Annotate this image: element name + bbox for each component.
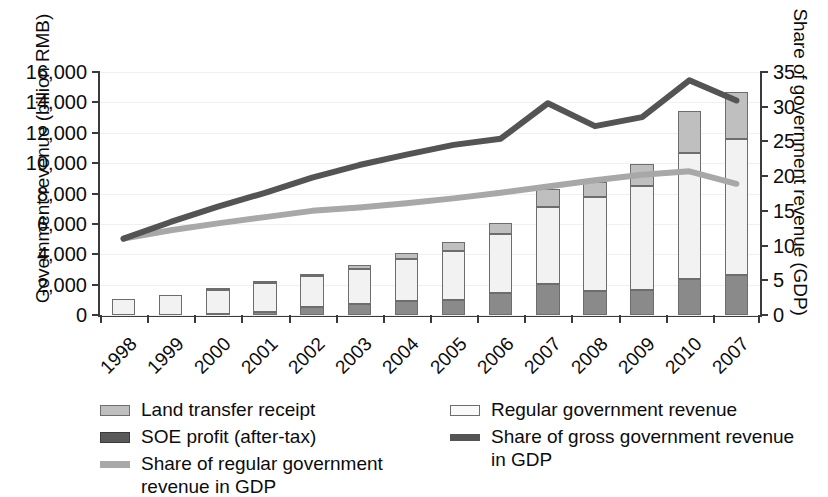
x-tick-mark [524,315,526,323]
bar-segment-soe-profit [630,290,654,315]
y-tick-mark-right [760,140,768,142]
x-tick-mark [666,315,668,323]
y-tick-label-right: 30 [773,95,795,118]
x-tick-label: 1999 [143,333,188,378]
bar-segment-soe-profit [536,284,560,315]
bar-segment-soe-profit [442,300,466,315]
bar-segment-soe-profit [489,293,513,315]
bar-segment-soe-profit [583,291,607,315]
y-tick-mark-right [760,245,768,247]
y-tick-label-left: 12,000 [26,121,87,144]
bar-column [725,92,749,315]
x-tick-label: 2007 [520,333,565,378]
bar-segment-regular-revenue [630,186,654,290]
y-tick-mark-left [92,162,100,164]
regular-share-line-swatch [100,461,130,468]
x-tick-mark [713,315,715,323]
y-tick-label-right: 5 [773,269,784,292]
regular-revenue-swatch [450,405,480,416]
bar-segment-land-transfer [725,92,749,140]
y-tick-mark-left [92,253,100,255]
y-tick-label-right: 35 [773,61,795,84]
y-axis-right-title: Share of government revenue (GDP) [790,9,811,309]
gross-share-line-swatch [450,434,480,441]
bar-column [348,265,372,315]
y-tick-mark-left [92,101,100,103]
bar-segment-land-transfer [253,281,277,283]
y-tick-mark-left [92,223,100,225]
y-tick-mark-right [760,106,768,108]
legend-item-label: SOE profit (after-tax) [141,425,316,448]
y-tick-mark-right [760,71,768,73]
x-tick-label: 2003 [331,333,376,378]
bar-segment-regular-revenue [206,290,230,315]
soe-swatch [100,432,130,443]
legend-item-label: Regular government revenue [491,398,737,421]
y-tick-label-left: 14,000 [26,91,87,114]
y-tick-label-left: 10,000 [26,152,87,175]
bar-segment-land-transfer [300,274,324,276]
bar-column [206,288,230,315]
bar-column [159,295,183,315]
bar-column [489,223,513,315]
bar-column [442,242,466,315]
y-tick-label-left: 4,000 [37,243,87,266]
x-tick-label: 2008 [567,333,612,378]
y-tick-label-left: 6,000 [37,212,87,235]
y-tick-label-right: 25 [773,130,795,153]
y-tick-label-left: 2,000 [37,273,87,296]
x-tick-mark [571,315,573,323]
legend-item-label: Share of regular government revenue in G… [141,452,450,497]
bar-segment-land-transfer [395,253,419,260]
bar-segment-regular-revenue [159,295,183,315]
bar-column [536,189,560,315]
x-tick-label: 2004 [378,333,423,378]
x-tick-label: 2002 [284,333,329,378]
x-tick-label: 2005 [426,333,471,378]
legend-item[interactable]: SOE profit (after-tax) [100,425,450,448]
bar-column [630,164,654,315]
y-tick-mark-right [760,279,768,281]
bar-segment-land-transfer [206,288,230,290]
x-tick-label: 2009 [614,333,659,378]
legend-item[interactable]: Land transfer receipt [100,398,450,421]
bar-segment-land-transfer [583,182,607,198]
legend-item-label: Share of gross government revenue in GDP [491,425,800,471]
gridline [100,254,760,255]
x-tick-mark [336,315,338,323]
bar-segment-soe-profit [395,301,419,315]
legend-item[interactable]: Share of regular government revenue in G… [100,452,450,497]
y-tick-label-left: 8,000 [37,182,87,205]
y-tick-mark-right [760,175,768,177]
bar-segment-regular-revenue [300,276,324,306]
x-tick-label: 2010 [661,333,706,378]
bar-segment-land-transfer [348,265,372,269]
legend-column-left: Land transfer receiptSOE profit (after-t… [100,398,450,497]
y-tick-mark-left [92,193,100,195]
x-tick-label: 2006 [473,333,518,378]
y-tick-label-right: 10 [773,234,795,257]
plot-inner: 02,0004,0006,0008,00010,00012,00014,0001… [100,72,760,315]
x-tick-mark [477,315,479,323]
bar-segment-land-transfer [536,189,560,207]
bar-segment-regular-revenue [442,251,466,300]
bar-segment-land-transfer [630,164,654,186]
x-tick-mark [100,315,102,323]
x-tick-mark [241,315,243,323]
bar-column [678,111,702,315]
y-tick-label-right: 0 [773,304,784,327]
x-tick-mark [383,315,385,323]
legend-item[interactable]: Share of gross government revenue in GDP [450,425,800,471]
x-tick-label: 2000 [190,333,235,378]
y-tick-label-right: 20 [773,165,795,188]
y-tick-mark-left [92,132,100,134]
x-tick-mark [758,315,760,323]
legend-item[interactable]: Regular government revenue [450,398,800,421]
plot-area: 02,0004,0006,0008,00010,00012,00014,0001… [98,72,762,317]
chart-legend: Land transfer receiptSOE profit (after-t… [100,398,800,490]
bar-segment-regular-revenue [583,197,607,290]
bar-column [253,281,277,315]
gridline [100,194,760,195]
bar-segment-regular-revenue [725,139,749,274]
